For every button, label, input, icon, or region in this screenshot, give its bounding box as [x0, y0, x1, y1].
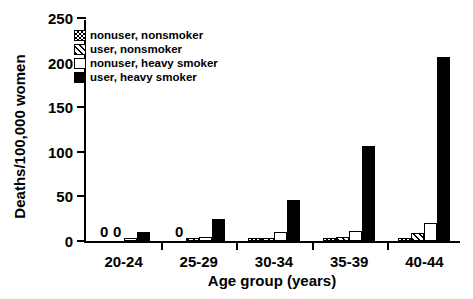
y-axis-tick	[77, 195, 86, 197]
legend-item: nonuser, nonsmoker	[74, 29, 218, 42]
bar	[261, 238, 274, 241]
bar	[349, 231, 362, 241]
bar-group: 35-39	[312, 20, 387, 241]
x-axis-group-label: 35-39	[330, 253, 368, 270]
y-axis-tick-label: 0	[65, 233, 73, 250]
bar	[362, 146, 375, 241]
bar	[124, 238, 137, 241]
bar-group: 30-34	[236, 20, 311, 241]
x-axis-group-label: 30-34	[255, 253, 293, 270]
bar	[212, 219, 225, 241]
legend-label: user, nonsmoker	[90, 44, 182, 56]
y-axis-tick	[77, 17, 86, 19]
x-axis-tick	[161, 241, 163, 250]
legend-swatch	[74, 44, 86, 55]
bar	[248, 238, 261, 241]
y-axis-title: Deaths/100,000 women	[11, 22, 28, 252]
legend-label: user, heavy smoker	[90, 72, 197, 84]
bar-value-label: 0	[100, 224, 108, 239]
x-axis-tick	[312, 241, 314, 250]
bar	[411, 233, 424, 241]
y-axis-tick-label: 150	[48, 99, 73, 116]
bar	[424, 223, 437, 241]
y-axis-tick	[77, 106, 86, 108]
y-axis-tick	[77, 151, 86, 153]
x-axis-tick	[387, 241, 389, 250]
chart-legend: nonuser, nonsmokeruser, nonsmokernonuser…	[74, 29, 218, 84]
y-axis-tick-label: 100	[48, 143, 73, 160]
bar	[199, 237, 212, 241]
bar	[437, 57, 450, 241]
bar-value-label: 0	[113, 224, 121, 239]
bar	[398, 238, 411, 241]
legend-label: nonuser, nonsmoker	[90, 30, 203, 42]
x-axis-tick	[236, 241, 238, 250]
y-axis-tick	[77, 240, 86, 242]
bar	[274, 232, 287, 241]
x-axis-title: Age group (years)	[84, 272, 460, 289]
bar	[323, 238, 336, 241]
bar-value-label: 0	[175, 224, 183, 239]
legend-swatch	[74, 72, 86, 83]
legend-label: nonuser, heavy smoker	[90, 58, 218, 70]
bar-group: 40-44	[387, 20, 462, 241]
x-axis-group-label: 40-44	[405, 253, 443, 270]
y-axis-tick-label: 200	[48, 54, 73, 71]
legend-item: user, nonsmoker	[74, 43, 218, 56]
bar	[137, 232, 150, 241]
y-axis-tick-label: 50	[56, 188, 73, 205]
legend-swatch	[74, 30, 86, 41]
bar	[287, 200, 300, 241]
legend-item: nonuser, heavy smoker	[74, 57, 218, 70]
y-axis-tick-label: 250	[48, 10, 73, 27]
bar	[186, 238, 199, 241]
legend-item: user, heavy smoker	[74, 71, 218, 84]
legend-swatch	[74, 58, 86, 69]
bar	[336, 237, 349, 241]
x-axis-group-label: 25-29	[180, 253, 218, 270]
x-axis-group-label: 20-24	[104, 253, 142, 270]
bar-chart-figure: Deaths/100,000 women 050100150200250 002…	[0, 0, 473, 299]
